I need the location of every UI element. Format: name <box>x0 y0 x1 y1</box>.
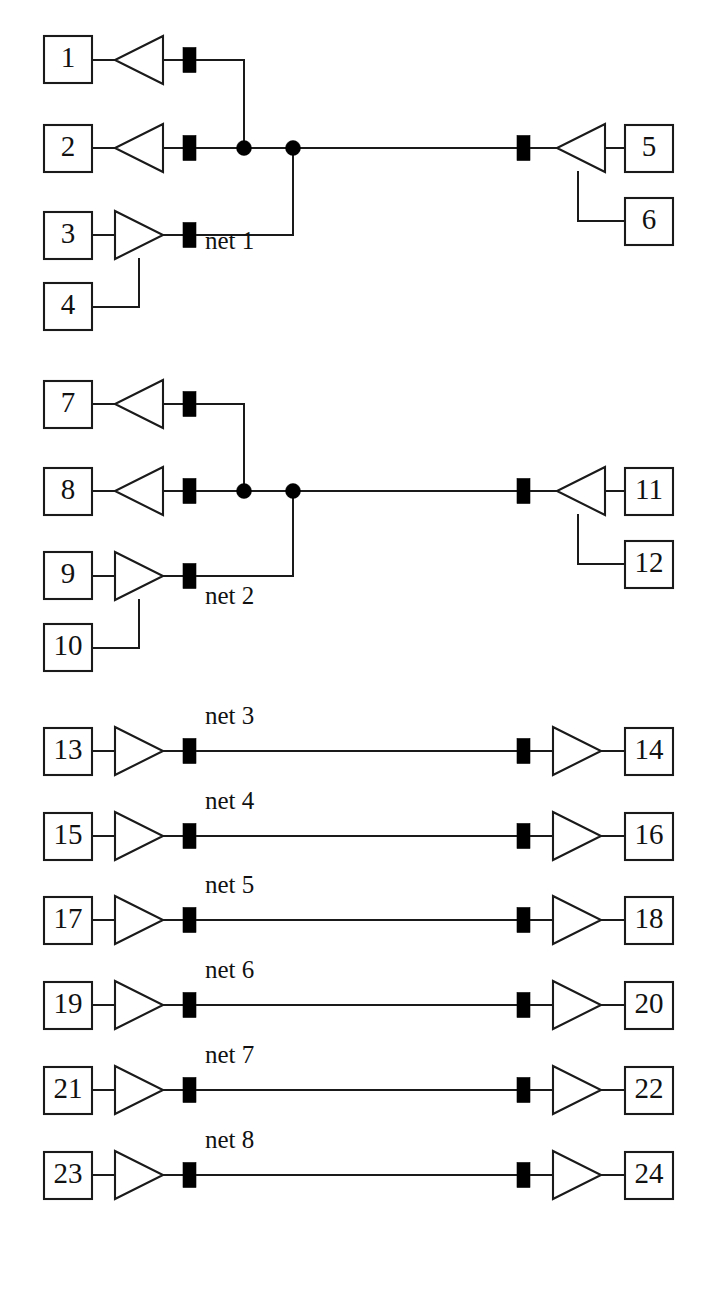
pin-box-21[interactable]: 21 <box>44 1067 92 1114</box>
termination-bar-1[interactable] <box>183 48 196 73</box>
pin-box-11[interactable]: 11 <box>625 468 673 515</box>
buffer-19[interactable] <box>115 981 163 1029</box>
pin-box-label: 14 <box>635 733 665 765</box>
junction-dot-1[interactable] <box>237 141 252 156</box>
aux-wire-12 <box>578 514 625 564</box>
termination-bar-11[interactable] <box>517 479 530 504</box>
pin-box-9[interactable]: 9 <box>44 552 92 599</box>
pin-box-18[interactable]: 18 <box>625 897 673 944</box>
buffer-14[interactable] <box>553 727 601 775</box>
termination-bar-24[interactable] <box>517 1163 530 1188</box>
termination-bar-16[interactable] <box>517 824 530 849</box>
junction-dot-2[interactable] <box>286 141 301 156</box>
pin-box-6[interactable]: 6 <box>625 198 673 245</box>
net-label: net 4 <box>205 787 255 814</box>
buffer-9[interactable] <box>115 552 163 600</box>
termination-bar-2[interactable] <box>183 136 196 161</box>
pin-box-label: 8 <box>61 473 76 505</box>
pin-box-label: 18 <box>635 902 664 934</box>
termination-bar-3[interactable] <box>183 223 196 248</box>
pin-box-13[interactable]: 13 <box>44 728 92 775</box>
pin-box-label: 5 <box>642 130 657 162</box>
termination-bar-14[interactable] <box>517 739 530 764</box>
termination-bar-23[interactable] <box>183 1163 196 1188</box>
buffer-5[interactable] <box>557 124 605 172</box>
schematic-canvas: 123456net 1789101112net 21314net 31516ne… <box>0 0 711 1296</box>
pin-box-20[interactable]: 20 <box>625 982 673 1029</box>
pin-box-24[interactable]: 24 <box>625 1152 673 1199</box>
pin-box-5[interactable]: 5 <box>625 125 673 172</box>
termination-bar-7[interactable] <box>183 392 196 417</box>
pin-box-19[interactable]: 19 <box>44 982 92 1029</box>
pin-box-12[interactable]: 12 <box>625 541 673 588</box>
buffer-21[interactable] <box>115 1066 163 1114</box>
buffer-2[interactable] <box>115 124 163 172</box>
pin-box-17[interactable]: 17 <box>44 897 92 944</box>
net-label: net 6 <box>205 956 254 983</box>
net-label: net 2 <box>205 582 254 609</box>
pin-box-14[interactable]: 14 <box>625 728 673 775</box>
buffer-13[interactable] <box>115 727 163 775</box>
pin-box-label: 19 <box>54 987 83 1019</box>
pin-box-label: 1 <box>61 41 76 73</box>
pin-box-label: 15 <box>54 818 83 850</box>
buffer-23[interactable] <box>115 1151 163 1199</box>
riser-wire-1 <box>196 60 244 148</box>
pin-box-label: 21 <box>54 1072 83 1104</box>
aux-wire-10 <box>92 599 139 648</box>
pin-box-label: 23 <box>54 1157 83 1189</box>
pin-box-16[interactable]: 16 <box>625 813 673 860</box>
pin-box-4[interactable]: 4 <box>44 283 92 330</box>
termination-bar-18[interactable] <box>517 908 530 933</box>
pin-box-7[interactable]: 7 <box>44 381 92 428</box>
buffer-22[interactable] <box>553 1066 601 1114</box>
buffer-8[interactable] <box>115 467 163 515</box>
termination-bar-8[interactable] <box>183 479 196 504</box>
pin-box-label: 3 <box>61 217 76 249</box>
pin-box-label: 13 <box>54 733 83 765</box>
net-label: net 1 <box>205 227 254 254</box>
net-label: net 8 <box>205 1126 254 1153</box>
pin-box-label: 12 <box>635 546 664 578</box>
riser-wire-3 <box>196 148 293 235</box>
buffer-20[interactable] <box>553 981 601 1029</box>
net-label: net 3 <box>205 702 254 729</box>
buffer-3[interactable] <box>115 211 163 259</box>
termination-bar-19[interactable] <box>183 993 196 1018</box>
buffer-18[interactable] <box>553 896 601 944</box>
pin-box-22[interactable]: 22 <box>625 1067 673 1114</box>
buffer-7[interactable] <box>115 380 163 428</box>
buffer-17[interactable] <box>115 896 163 944</box>
termination-bar-5[interactable] <box>517 136 530 161</box>
junction-dot-1[interactable] <box>237 484 252 499</box>
pin-box-label: 17 <box>54 902 83 934</box>
pin-box-23[interactable]: 23 <box>44 1152 92 1199</box>
termination-bar-20[interactable] <box>517 993 530 1018</box>
buffer-24[interactable] <box>553 1151 601 1199</box>
riser-wire-9 <box>196 491 293 576</box>
termination-bar-22[interactable] <box>517 1078 530 1103</box>
termination-bar-21[interactable] <box>183 1078 196 1103</box>
buffer-11[interactable] <box>557 467 605 515</box>
termination-bar-9[interactable] <box>183 564 196 589</box>
pin-box-label: 22 <box>635 1072 664 1104</box>
pin-box-1[interactable]: 1 <box>44 36 92 83</box>
pin-box-label: 7 <box>61 386 76 418</box>
buffer-1[interactable] <box>115 36 163 84</box>
pin-box-2[interactable]: 2 <box>44 125 92 172</box>
pin-box-3[interactable]: 3 <box>44 212 92 259</box>
pin-box-15[interactable]: 15 <box>44 813 92 860</box>
termination-bar-13[interactable] <box>183 739 196 764</box>
pin-box-label: 9 <box>61 557 76 589</box>
pin-box-10[interactable]: 10 <box>44 624 92 671</box>
buffer-16[interactable] <box>553 812 601 860</box>
pin-box-label: 4 <box>61 288 76 320</box>
termination-bar-15[interactable] <box>183 824 196 849</box>
net-label: net 5 <box>205 871 254 898</box>
junction-dot-2[interactable] <box>286 484 301 499</box>
pin-box-8[interactable]: 8 <box>44 468 92 515</box>
termination-bar-17[interactable] <box>183 908 196 933</box>
riser-wire-7 <box>196 404 244 491</box>
pin-box-label: 24 <box>635 1157 665 1189</box>
buffer-15[interactable] <box>115 812 163 860</box>
